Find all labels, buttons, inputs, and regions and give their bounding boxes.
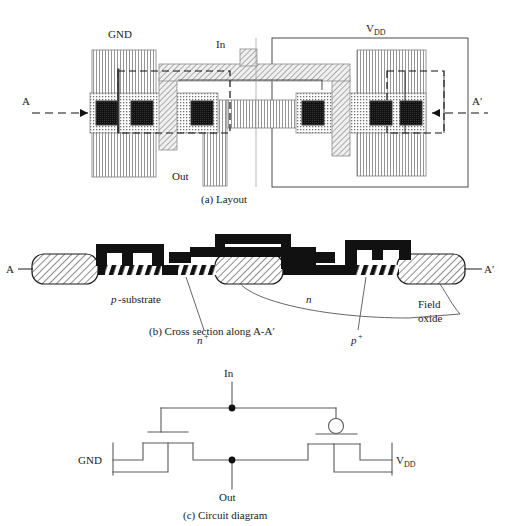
circuit-label-gnd: GND xyxy=(78,454,102,466)
panel-circuit-diagram: In Out GND V DD (c) Circuit diagram xyxy=(78,367,416,522)
xs-label-p-plus: p + xyxy=(350,277,366,346)
pmos-bulk-path xyxy=(334,444,392,472)
xs-right-contact-c xyxy=(399,240,411,260)
circuit-label-in: In xyxy=(224,367,234,379)
svg-text:DD: DD xyxy=(374,28,386,37)
panel-cross-section: A A′ p -substrate n + n p + Field oxide xyxy=(6,234,494,346)
pmos-drain-path xyxy=(232,444,308,460)
caption-layout: (a) Layout xyxy=(201,193,247,206)
xs-left-contact-b xyxy=(122,244,133,266)
xs-label-field-oxide: Field oxide xyxy=(240,283,460,324)
xs-label-n-well: n xyxy=(306,293,312,305)
cmos-inverter-figure: GND In Out V DD A A′ (a) Layout xyxy=(0,0,507,526)
svg-text:oxide: oxide xyxy=(418,312,443,324)
nmos-bulk-path xyxy=(113,443,168,472)
pmos-source-path xyxy=(360,444,392,460)
xs-center-metal-top xyxy=(215,234,291,244)
layout-section-label-aprime: A′ xyxy=(472,95,482,107)
svg-text:p: p xyxy=(110,293,117,305)
svg-text:-substrate: -substrate xyxy=(118,293,161,305)
svg-text:+: + xyxy=(358,332,363,341)
poly-gate-nmos xyxy=(159,78,177,150)
xs-left-contact-c xyxy=(152,244,164,266)
xs-poly-gate-left xyxy=(169,252,191,263)
poly-input-stub xyxy=(240,49,257,66)
xs-left-contact-a xyxy=(96,244,107,266)
layout-label-in: In xyxy=(216,38,226,50)
p-plus-implant-right xyxy=(355,265,399,275)
xs-label-a: A xyxy=(6,263,14,275)
circuit-label-vdd: V DD xyxy=(396,454,416,469)
svg-text:V: V xyxy=(396,454,404,466)
node-dot-in xyxy=(229,405,236,412)
panel-layout: GND In Out V DD A A′ (a) Layout xyxy=(22,22,488,206)
caption-circuit-diagram: (c) Circuit diagram xyxy=(183,509,268,522)
out-metal-connector xyxy=(227,100,302,128)
layout-label-gnd: GND xyxy=(108,28,132,40)
node-dot-out xyxy=(229,457,236,464)
layout-section-label-a: A xyxy=(22,95,30,107)
n-plus-implant-left xyxy=(105,265,162,275)
xs-center-metal-down xyxy=(281,247,316,269)
svg-text:Field: Field xyxy=(418,298,441,310)
svg-text:DD: DD xyxy=(404,460,416,469)
xs-right-contact-b xyxy=(372,240,383,260)
svg-text:p: p xyxy=(350,334,357,346)
inner-solid-frame-left xyxy=(178,80,322,90)
layout-label-out: Out xyxy=(172,170,189,182)
field-oxide-left xyxy=(32,254,98,284)
poly-gate-pmos xyxy=(332,78,350,156)
n-plus-implant-mid xyxy=(178,265,216,275)
caption-cross-section: (b) Cross section along A-A′ xyxy=(149,325,275,338)
xs-right-contact-a xyxy=(345,240,357,267)
field-oxide-mid xyxy=(215,254,283,284)
poly-input-interconnect xyxy=(159,64,350,81)
xs-center-metal-riser-l xyxy=(215,234,225,256)
pmos-inverting-bubble xyxy=(329,419,344,434)
nmos-source-path xyxy=(113,443,143,460)
layout-label-vdd: V DD xyxy=(366,22,386,37)
xs-poly-gate-right xyxy=(313,252,335,263)
circuit-label-out: Out xyxy=(219,491,236,503)
xs-label-p-substrate: p -substrate xyxy=(110,293,161,305)
nmos-drain-path xyxy=(193,443,232,460)
svg-text:V: V xyxy=(366,22,374,34)
xs-label-aprime: A′ xyxy=(484,263,494,275)
